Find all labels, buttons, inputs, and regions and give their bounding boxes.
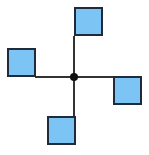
pinwheel-diagram <box>0 0 149 155</box>
square-top <box>75 8 102 35</box>
square-left <box>8 49 35 76</box>
square-right <box>114 77 141 104</box>
center-hub <box>70 73 78 81</box>
square-bottom <box>48 117 75 144</box>
